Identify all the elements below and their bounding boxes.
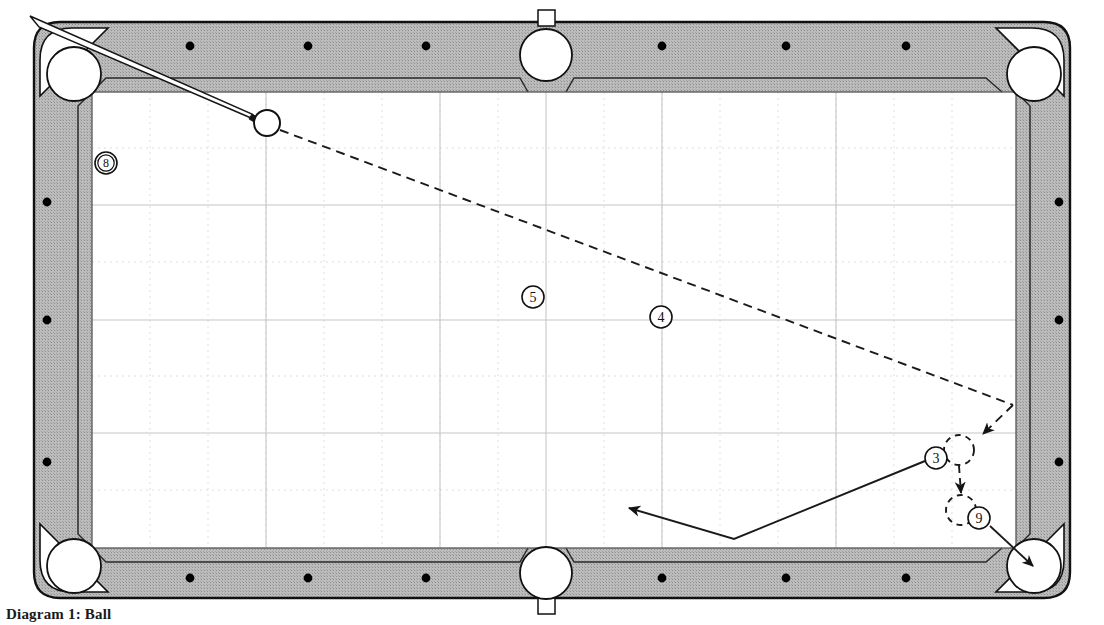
diamond-top-1 — [186, 42, 195, 51]
diamond-bottom-3 — [422, 574, 431, 583]
diamond-right-1 — [1055, 198, 1064, 207]
diamond-top-6 — [902, 42, 911, 51]
bottom-left-pocket[interactable] — [47, 539, 101, 593]
diamond-top-5 — [782, 42, 791, 51]
ball-label-8[interactable]: 8 — [95, 152, 117, 174]
diamond-top-3 — [422, 42, 431, 51]
figure-caption: Diagram 1: Ball — [6, 606, 112, 623]
diamond-bottom-4 — [658, 574, 667, 583]
diamond-left-1 — [43, 198, 52, 207]
diamond-left-3 — [43, 458, 52, 467]
diagram-canvas: 8 5 4 3 9 Diagram 1: Ball — [0, 0, 1104, 625]
ball-label-5[interactable]: 5 — [522, 286, 544, 308]
diamond-bottom-2 — [304, 574, 313, 583]
top-right-pocket[interactable] — [1007, 47, 1061, 101]
bottom-middle-pocket[interactable] — [520, 547, 572, 599]
diamond-bottom-5 — [782, 574, 791, 583]
diamond-top-2 — [304, 42, 313, 51]
ball-3-number: 3 — [933, 451, 940, 466]
bottom-middle-pocket-tab — [538, 598, 555, 614]
pool-table-diagram: 8 5 4 3 9 — [0, 0, 1104, 625]
ball-label-3[interactable]: 3 — [925, 447, 947, 469]
bottom-right-pocket[interactable] — [1007, 539, 1061, 593]
diamond-right-2 — [1055, 316, 1064, 325]
ball-8-number: 8 — [103, 156, 109, 170]
top-middle-pocket-tab — [538, 10, 555, 26]
ball-5-number: 5 — [530, 290, 537, 305]
ball-label-9[interactable]: 9 — [968, 507, 990, 529]
top-left-pocket[interactable] — [47, 47, 101, 101]
ball-9-number: 9 — [976, 511, 983, 526]
diamond-top-4 — [658, 42, 667, 51]
ball-label-4[interactable]: 4 — [650, 306, 672, 328]
diamond-right-3 — [1055, 458, 1064, 467]
diamond-bottom-1 — [186, 574, 195, 583]
cue-ball[interactable] — [254, 110, 280, 136]
top-middle-pocket[interactable] — [520, 29, 572, 81]
diamond-bottom-6 — [902, 574, 911, 583]
ball-4-number: 4 — [658, 310, 665, 325]
diamond-left-2 — [43, 316, 52, 325]
